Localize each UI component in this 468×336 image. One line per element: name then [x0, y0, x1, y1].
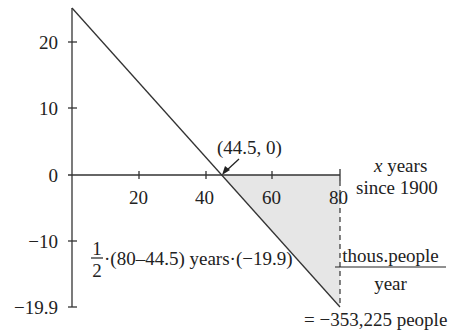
y-tick-label-0: 0 — [8, 166, 58, 185]
half-denominator: 2 — [91, 261, 103, 280]
y-tick-label-10: 10 — [8, 99, 58, 118]
unit-denominator: year — [335, 274, 446, 293]
y-tick-label-20: 20 — [8, 33, 58, 52]
x-axis-label-line2: since 1900 — [356, 178, 438, 197]
x-tick-label-40: 40 — [195, 188, 214, 207]
x-axis-label-years: years — [382, 155, 427, 176]
arrow-head — [222, 166, 230, 175]
result-text: = −353,225 people — [304, 310, 447, 329]
point-label: (44.5, 0) — [217, 138, 282, 157]
x-tick-label-80: 80 — [329, 188, 348, 207]
x-tick-label-20: 20 — [129, 188, 148, 207]
half-numerator: 1 — [91, 239, 103, 258]
x-axis-label-line1: x years — [374, 156, 427, 175]
y-tick-label-neg10: −10 — [8, 232, 58, 251]
formula-body: ·(80–44.5) years·(−19.9) — [104, 249, 293, 268]
y-tick-label-neg19.9: −19.9 — [8, 298, 58, 317]
x-tick-label-60: 60 — [262, 188, 281, 207]
unit-numerator: thous.people — [335, 246, 446, 265]
